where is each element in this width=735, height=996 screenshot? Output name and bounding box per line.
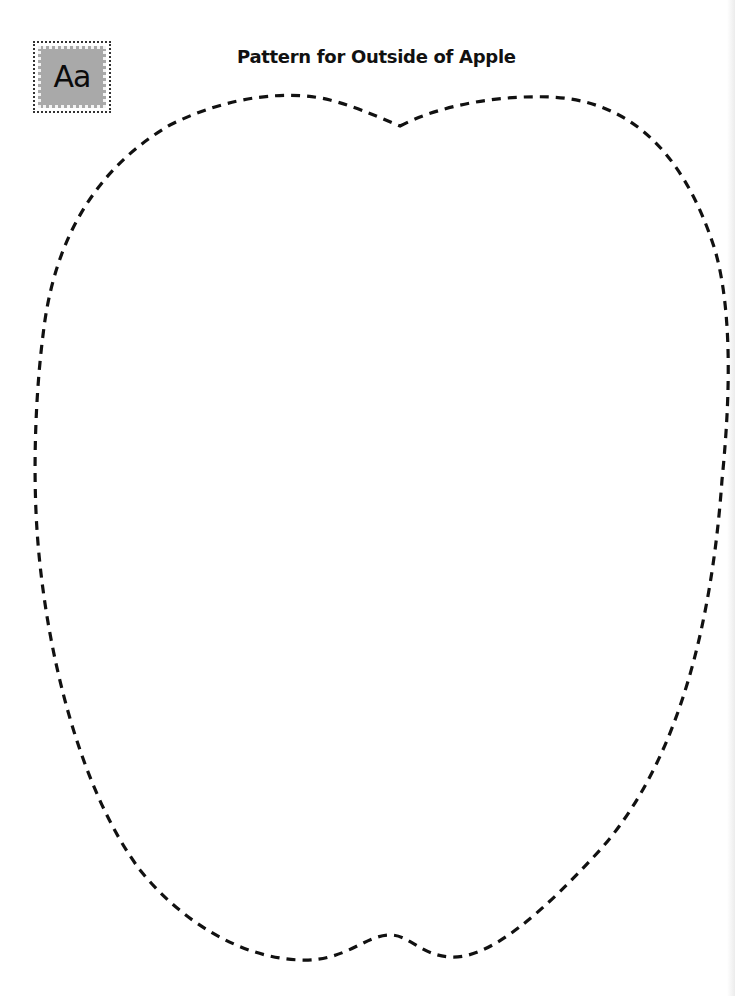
apple-outline-icon xyxy=(0,0,735,996)
apple-cut-line xyxy=(35,95,728,960)
